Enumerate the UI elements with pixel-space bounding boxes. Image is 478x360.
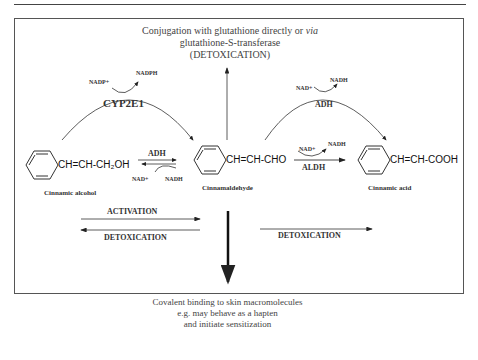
formula-cinnamic-alcohol: CH=CH-CH₂OH: [58, 159, 129, 170]
enzyme-adh-mid: ADH: [148, 149, 166, 158]
bottom-note-line2: e.g. may behave as a hapten: [177, 308, 278, 318]
name-cinnamic-alcohol: Cinnamic alcohol: [44, 189, 96, 197]
conjugation-line2: glutathione-S-transferase: [180, 37, 281, 48]
formula-cinnamaldehyde: CH=CH-CHO: [226, 154, 286, 165]
conjugation-line1: Conjugation with glutathione directly or: [142, 25, 306, 36]
conjugation-note: Conjugation with glutathione directly or…: [100, 25, 360, 61]
cofactor-nad-top: NAD+: [296, 85, 312, 91]
conjugation-line3: (DETOXICATION): [190, 49, 270, 60]
name-cinnamaldehyde: Cinnamaldehyde: [202, 184, 253, 192]
cofactor-nadh-mid: NADH: [165, 176, 183, 182]
cofactor-nadph: NADPH: [136, 70, 157, 76]
benzene-ring-icon: [358, 146, 390, 174]
cofactor-nad-mid: NAD+: [132, 176, 148, 182]
covalent-binding-note: Covalent binding to skin macromolecules …: [120, 297, 335, 330]
enzyme-adh-top: ADH: [315, 100, 333, 109]
label-detoxication-right: DETOXICATION: [278, 231, 341, 240]
cofactor-nadh-aldh: NADH: [328, 141, 346, 147]
label-detoxication-left: DETOXICATION: [104, 233, 167, 242]
cofactor-nad-aldh: NAD+: [299, 146, 315, 152]
cofactor-nadp: NADP+: [89, 79, 109, 85]
formula-cinnamic-acid: CH=CH-COOH: [390, 154, 458, 165]
bottom-note-line1: Covalent binding to skin macromolecules: [153, 297, 303, 307]
benzene-ring-icon: [194, 146, 226, 174]
label-activation: ACTIVATION: [107, 207, 157, 216]
via-italic: via: [306, 25, 318, 36]
name-cinnamic-acid: Cinnamic acid: [368, 184, 411, 192]
bottom-note-line3: and initiate sensitization: [184, 319, 271, 329]
enzyme-aldh: ALDH: [302, 163, 325, 172]
cofactor-nadh-top: NADH: [330, 77, 348, 83]
benzene-ring-icon: [26, 151, 58, 179]
enzyme-cyp2e1: CYP2E1: [103, 97, 144, 109]
